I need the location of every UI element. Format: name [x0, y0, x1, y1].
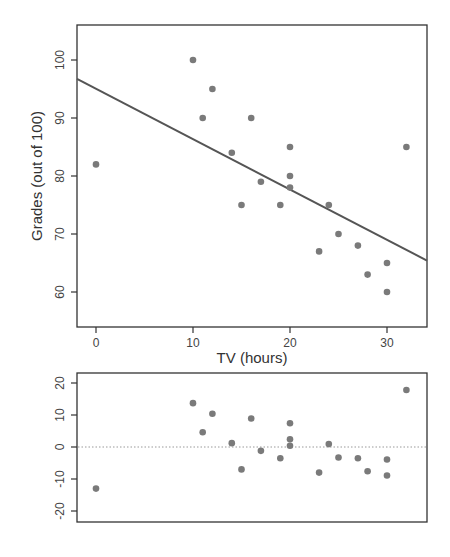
- y-tick-label: 60: [53, 285, 67, 299]
- residual-point: [190, 400, 197, 407]
- residual-point: [287, 436, 294, 443]
- residual-point: [209, 410, 216, 417]
- data-point: [190, 57, 197, 64]
- data-point: [384, 260, 391, 267]
- y-tick-label: -10: [53, 470, 67, 488]
- data-point: [277, 202, 284, 209]
- y-tick-label: 100: [53, 50, 67, 70]
- residual-point: [93, 485, 100, 492]
- chart-canvas: 60708090100 0102030 TV (hours) Grades (o…: [0, 0, 450, 557]
- data-point: [384, 289, 391, 296]
- data-point: [287, 184, 294, 191]
- residual-point: [316, 469, 323, 476]
- data-points: [93, 57, 410, 296]
- x-axis: 0102030: [93, 327, 394, 350]
- x-tick-label: 20: [283, 336, 297, 350]
- y-axis-title: Grades (out of 100): [28, 111, 45, 241]
- data-point: [287, 144, 294, 151]
- y-axis: 60708090100: [53, 50, 77, 299]
- residual-points: [93, 387, 410, 492]
- residual-point: [258, 448, 265, 455]
- residual-point: [364, 468, 371, 475]
- residual-point: [277, 455, 284, 462]
- residual-point: [199, 429, 206, 436]
- data-point: [355, 242, 362, 249]
- residual-point: [403, 387, 410, 394]
- y-tick-label: 90: [53, 111, 67, 125]
- y-tick-label: 20: [53, 376, 67, 390]
- data-point: [403, 144, 410, 151]
- data-point: [326, 202, 333, 209]
- data-point: [248, 115, 255, 122]
- x-tick-label: 10: [186, 336, 200, 350]
- y-tick-label: -20: [53, 502, 67, 520]
- data-point: [287, 173, 294, 180]
- residual-point: [355, 455, 362, 462]
- y-tick-label: 10: [53, 408, 67, 422]
- data-point: [316, 248, 323, 255]
- data-point: [335, 231, 342, 238]
- residual-point: [384, 456, 391, 463]
- regression-line: [77, 79, 427, 261]
- residual-point: [229, 440, 236, 447]
- data-point: [209, 86, 216, 93]
- residual-point: [248, 415, 255, 422]
- residual-point: [326, 441, 333, 448]
- data-point: [229, 150, 236, 157]
- scatter-plot: 60708090100 0102030 TV (hours) Grades (o…: [28, 25, 427, 366]
- residual-point: [238, 466, 245, 473]
- x-tick-label: 0: [93, 336, 100, 350]
- residual-y-axis: -20-1001020: [53, 376, 77, 520]
- data-point: [93, 161, 100, 168]
- data-point: [238, 202, 245, 209]
- residual-point: [287, 442, 294, 449]
- data-point: [199, 115, 206, 122]
- plot-frame: [77, 25, 427, 327]
- residual-plot: -20-1001020: [53, 373, 427, 522]
- x-tick-label: 30: [380, 336, 394, 350]
- residual-point: [287, 420, 294, 427]
- data-point: [258, 179, 265, 186]
- y-tick-label: 70: [53, 227, 67, 241]
- x-axis-title: TV (hours): [217, 349, 288, 366]
- y-tick-label: 80: [53, 169, 67, 183]
- residual-point: [335, 454, 342, 461]
- residual-point: [384, 472, 391, 479]
- residual-frame: [77, 373, 427, 522]
- data-point: [364, 271, 371, 278]
- y-tick-label: 0: [53, 443, 67, 450]
